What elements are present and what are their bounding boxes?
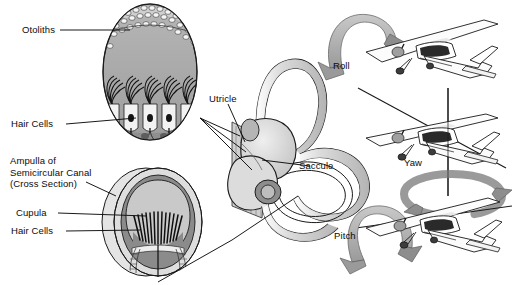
label-cupula: Cupula xyxy=(16,207,47,219)
inner-ear-labyrinth xyxy=(228,59,370,241)
diagram-graphics xyxy=(0,0,514,285)
label-roll: Roll xyxy=(333,60,350,72)
label-pitch: Pitch xyxy=(334,230,356,242)
label-utricle: Utricle xyxy=(209,93,237,105)
label-saccule: Saccule xyxy=(299,160,334,172)
label-ampulla-cross-section: Ampulla of Semicircular Canal (Cross Sec… xyxy=(10,155,92,190)
otolith-organ-panel xyxy=(100,4,200,150)
label-hair-cells-lower: Hair Cells xyxy=(11,225,53,237)
ampulla-cross-section-panel xyxy=(102,168,202,282)
vestibular-aircraft-figure: Otoliths Hair Cells Ampulla of Semicircu… xyxy=(0,0,514,285)
label-hair-cells-upper: Hair Cells xyxy=(11,118,53,130)
aircraft-yaw xyxy=(366,88,512,216)
label-yaw: Yaw xyxy=(404,157,422,169)
label-otoliths: Otoliths xyxy=(22,24,55,36)
